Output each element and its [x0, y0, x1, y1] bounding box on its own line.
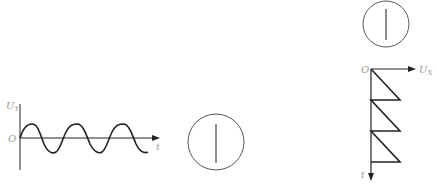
oscilloscope-screen-top-right — [363, 1, 409, 47]
diagram-canvas: UY O t O UX t — [0, 0, 437, 186]
t-axis-label: t — [361, 170, 365, 180]
x-axis-arrow-icon — [152, 135, 160, 141]
sawtooth-wave — [371, 69, 400, 162]
x-axis-label: t — [156, 142, 160, 152]
ux-t-graph: O UX t — [361, 64, 433, 181]
x-axis-arrow-icon — [408, 66, 416, 72]
oscilloscope-screen-middle — [188, 114, 244, 170]
origin-label: O — [361, 64, 369, 75]
x-axis-label: UX — [419, 64, 433, 77]
t-axis-arrow-icon — [368, 173, 374, 181]
y-axis-label: UY — [6, 100, 20, 113]
uy-t-graph: UY O t — [6, 100, 160, 170]
origin-label: O — [8, 133, 16, 144]
